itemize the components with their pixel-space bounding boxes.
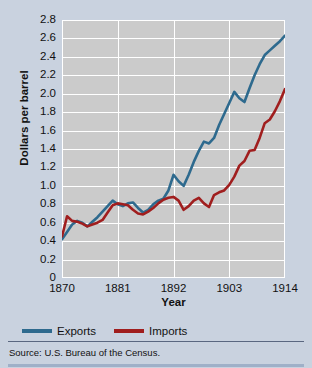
- y-axis-tick: 2.6: [12, 32, 56, 43]
- legend-swatch-icon: [114, 329, 144, 333]
- series-line-exports: [62, 36, 285, 240]
- x-axis-tick: 1870: [39, 282, 85, 294]
- y-axis-tick: 0.8: [12, 198, 56, 209]
- source-note: Source: U.S. Bureau of the Census.: [9, 347, 160, 359]
- x-axis-tick: 1914: [262, 282, 308, 294]
- plot-area: [62, 20, 285, 278]
- y-axis-tick: 2.2: [12, 69, 56, 80]
- source-divider-top: [8, 341, 304, 342]
- legend-item-imports[interactable]: Imports: [114, 325, 187, 337]
- y-axis-tick: 0.4: [12, 235, 56, 246]
- y-axis-tick: 0.6: [12, 217, 56, 228]
- plot-wrapper: [62, 20, 285, 278]
- chart-figure: Dollars per barrel 00.20.40.60.81.01.21.…: [0, 0, 312, 368]
- y-axis-tick: 0.2: [12, 254, 56, 265]
- x-axis-tick: 1903: [206, 282, 252, 294]
- x-axis-tick: 1881: [95, 282, 141, 294]
- y-axis-tick: 1.8: [12, 106, 56, 117]
- series-lines: [62, 20, 285, 278]
- legend-label: Exports: [57, 325, 96, 337]
- legend-label: Imports: [149, 325, 187, 337]
- chart-card: Dollars per barrel 00.20.40.60.81.01.21.…: [8, 8, 304, 303]
- source-divider-bottom: [8, 364, 304, 367]
- y-axis-tick: 2.8: [12, 14, 56, 25]
- x-axis-tick: 1892: [151, 282, 197, 294]
- series-line-imports: [62, 89, 285, 236]
- y-axis-tick: 1.4: [12, 143, 56, 154]
- y-axis-tick: 2.0: [12, 88, 56, 99]
- y-axis-tick: 2.4: [12, 51, 56, 62]
- y-axis-tick: 1.6: [12, 125, 56, 136]
- y-axis-tick: 1.2: [12, 161, 56, 172]
- x-axis-title: Year: [62, 296, 285, 308]
- y-axis-title: Dollars per barrel: [18, 38, 30, 198]
- legend-item-exports[interactable]: Exports: [22, 325, 96, 337]
- y-axis-tick: 1.0: [12, 180, 56, 191]
- chart-legend: ExportsImports: [22, 325, 187, 337]
- legend-swatch-icon: [22, 329, 52, 333]
